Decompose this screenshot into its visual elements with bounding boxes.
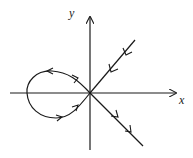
x-axis-label: x [178,93,185,107]
homoclinic-loop [27,71,90,118]
arrow-icon [111,110,118,117]
y-axis-label: y [68,6,75,20]
stable-manifold [90,40,135,93]
phase-portrait-diagram: x y [0,0,193,158]
unstable-manifold [90,93,143,146]
